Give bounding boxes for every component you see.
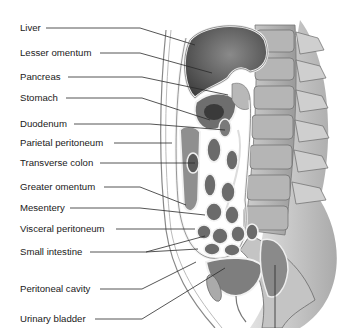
anatomy-figure: Liver Lesser omentum Pancreas Stomach Du… (0, 0, 344, 328)
label-liver: Liver (20, 22, 41, 33)
label-greater-omentum: Greater omentum (20, 181, 95, 192)
label-small-intestine: Small intestine (20, 246, 82, 257)
duodenum-organ (219, 119, 231, 137)
label-lesser-omentum: Lesser omentum (20, 47, 91, 58)
label-peritoneal-cavity: Peritoneal cavity (20, 283, 90, 294)
label-stomach: Stomach (20, 92, 58, 103)
label-mesentery: Mesentery (20, 202, 65, 213)
label-pancreas: Pancreas (20, 71, 61, 82)
label-visceral-peritoneum: Visceral peritoneum (20, 223, 105, 234)
label-parietal-peritoneum: Parietal peritoneum (20, 137, 103, 148)
label-urinary-bladder: Urinary bladder (20, 313, 86, 324)
label-transverse-colon: Transverse colon (20, 157, 93, 168)
label-duodenum: Duodenum (20, 118, 67, 129)
